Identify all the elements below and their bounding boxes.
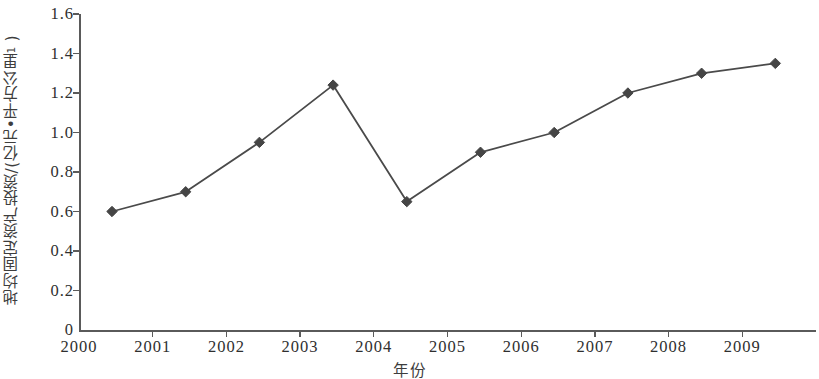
x-axis-tick-label: 2000 — [39, 337, 119, 357]
data-point-marker — [623, 88, 633, 98]
data-point-marker — [107, 206, 117, 216]
y-axis-tick-label: 1.2 — [28, 85, 74, 102]
y-axis-tick-label: 0.4 — [28, 243, 74, 260]
series-plot — [0, 0, 819, 379]
x-axis-tick-label: 2005 — [408, 337, 488, 357]
y-axis-tick-mark — [73, 132, 79, 133]
data-point-marker — [770, 58, 780, 68]
y-axis-title: 地均固定资产投资/(亿元•平方公里-1) — [0, 0, 26, 340]
x-axis-tick-label: 2002 — [186, 337, 266, 357]
y-axis-tick-label: 0.2 — [28, 283, 74, 300]
y-axis-tick-label: 1.6 — [28, 6, 74, 23]
line-chart: 地均固定资产投资/(亿元•平方公里-1) 00.20.40.60.81.01.2… — [0, 0, 819, 379]
y-axis-tick-mark — [73, 13, 79, 14]
series-line — [112, 63, 775, 211]
data-point-marker — [696, 68, 706, 78]
x-axis-tick-label: 2003 — [260, 337, 340, 357]
y-axis-tick-label: 1.4 — [28, 46, 74, 63]
x-axis-tick-label: 2007 — [555, 337, 635, 357]
data-point-marker — [254, 137, 264, 147]
data-point-marker — [181, 187, 191, 197]
x-axis-tick-label: 2004 — [334, 337, 414, 357]
x-axis-tick-label: 2001 — [113, 337, 193, 357]
data-point-marker — [402, 196, 412, 206]
y-axis-title-text: 地均固定资产投资/(亿元•平方公里 — [3, 52, 21, 305]
data-point-marker — [328, 80, 338, 90]
x-axis-tick-label: 2008 — [629, 337, 709, 357]
y-axis-tick-label: 0.8 — [28, 164, 74, 181]
data-point-marker — [549, 127, 559, 137]
y-axis-tick-mark — [73, 250, 79, 251]
y-axis-tick-label: 0.6 — [28, 204, 74, 221]
y-axis-tick-labels: 00.20.40.60.81.01.21.41.6 — [26, 0, 74, 379]
x-axis-tick-label: 2006 — [481, 337, 561, 357]
x-axis-tick-label: 2009 — [702, 337, 782, 357]
y-axis-tick-mark — [73, 53, 79, 54]
data-point-marker — [475, 147, 485, 157]
x-axis-title: 年份 — [0, 358, 819, 379]
y-axis-tick-mark — [73, 211, 79, 212]
y-axis-tick-label: 1.0 — [28, 125, 74, 142]
y-axis-tick-mark — [73, 171, 79, 172]
y-axis-title-suffix: ) — [3, 35, 21, 42]
y-axis-line — [79, 14, 81, 331]
y-axis-tick-mark — [73, 290, 79, 291]
y-axis-tick-mark — [73, 92, 79, 93]
y-axis-title-superscript: -1 — [6, 46, 17, 57]
